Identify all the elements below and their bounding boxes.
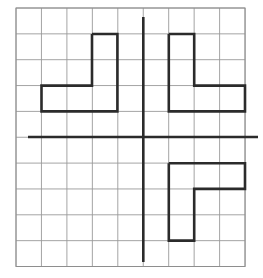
upper-right-L-shape: [169, 34, 245, 111]
axes-group: [28, 17, 258, 262]
figure-root: Polyomino shapes on a coordinate grid A …: [0, 0, 263, 278]
upper-left-L-shape: [42, 34, 118, 111]
grid-figure-canvas: [0, 0, 263, 278]
lower-right-F-shape: [169, 163, 245, 240]
